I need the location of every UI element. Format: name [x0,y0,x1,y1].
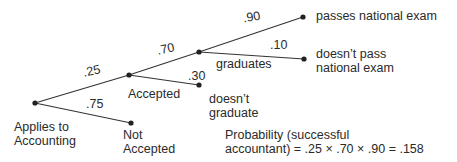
probability-formula: Probability (successful accountant) = .2… [225,128,424,156]
label-not-accepted: Not Accepted [123,128,175,156]
node-graduates [196,49,201,54]
prob-graduates-passes: .90 [242,9,262,26]
node-doesnt-pass [301,56,306,61]
node-passes [300,14,305,19]
node-root [32,100,37,105]
label-doesnt-graduate: doesn’t graduate [209,92,258,120]
label-accepted: Accepted [128,87,180,101]
label-passes: passes national exam [316,9,437,23]
node-accepted [126,72,131,77]
label-graduates: graduates [216,57,272,71]
prob-root-not-accepted: .75 [86,97,103,111]
prob-graduates-doesnt-pass: .10 [270,38,287,52]
label-doesnt-pass: doesn’t pass national exam [316,47,394,75]
prob-accepted-doesnt-graduate: .30 [188,69,205,83]
node-not-accepted [128,120,133,125]
edge-root-accepted [35,75,129,103]
label-root: Applies to Accounting [14,120,76,148]
node-doesnt-graduate [196,82,201,87]
